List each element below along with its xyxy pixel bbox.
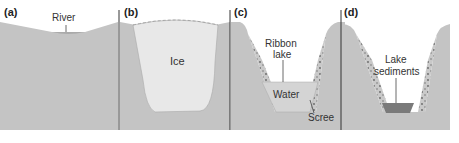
river-label: River xyxy=(52,12,75,23)
lake-sediments-label-2: sediments xyxy=(374,66,420,77)
panel-a-label: (a) xyxy=(4,6,17,18)
panel-a xyxy=(0,22,118,130)
panel-b-label: (b) xyxy=(124,6,138,18)
panel-d-label: (d) xyxy=(344,6,358,18)
scree-label: Scree xyxy=(308,112,334,123)
ice-label: Ice xyxy=(170,56,185,67)
panel-b xyxy=(120,20,230,130)
panel-d xyxy=(342,24,450,130)
ribbon-lake-label-2: lake xyxy=(273,49,291,60)
water-label: Water xyxy=(273,89,299,100)
ribbon-lake-label-1: Ribbon xyxy=(265,38,297,49)
panel-c-label: (c) xyxy=(234,6,247,18)
lake-sediments-label-1: Lake xyxy=(385,54,407,65)
